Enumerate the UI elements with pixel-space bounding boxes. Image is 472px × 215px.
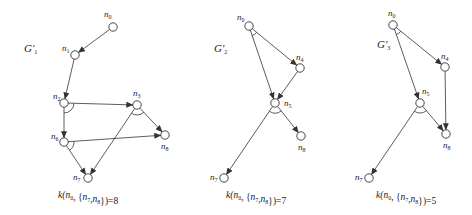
edge-n5-n7 bbox=[226, 107, 272, 175]
node-label-n1: n1 bbox=[62, 43, 70, 54]
edge-n4-n8 bbox=[445, 71, 446, 130]
and-connector-arc bbox=[70, 141, 75, 150]
node-label-n3: n3 bbox=[133, 88, 141, 99]
edge-n5-n8 bbox=[423, 106, 444, 131]
edge-n0-n1 bbox=[78, 30, 109, 53]
node-n3 bbox=[133, 101, 141, 109]
node-label-n8: n8 bbox=[443, 140, 451, 151]
node-n7 bbox=[365, 174, 373, 182]
node-n5 bbox=[416, 99, 424, 107]
graph-g1: n0n1n2n3n6n8n7G'1k(n0, {n7,n8})=8 bbox=[24, 9, 169, 207]
edge-n5-n8 bbox=[278, 106, 299, 132]
node-label-n7: n7 bbox=[355, 172, 363, 183]
graph-caption: k(n0, {n7,n8})=8 bbox=[58, 190, 118, 207]
node-n6 bbox=[60, 138, 68, 146]
edge-n0-n5 bbox=[250, 30, 273, 99]
and-connector-arc bbox=[252, 32, 257, 35]
node-label-n8: n8 bbox=[161, 141, 169, 152]
edge-n0-n5 bbox=[394, 29, 418, 99]
node-n0 bbox=[109, 23, 117, 31]
node-n4 bbox=[296, 64, 304, 72]
node-label-n0: n0 bbox=[237, 12, 245, 23]
node-n0 bbox=[389, 21, 397, 29]
graph-title: G'1 bbox=[24, 42, 37, 55]
node-n7 bbox=[84, 174, 92, 182]
node-n8 bbox=[442, 130, 450, 138]
edge-n3-n7 bbox=[90, 109, 134, 175]
graph-title: G'2 bbox=[214, 42, 227, 55]
node-n2 bbox=[60, 99, 68, 107]
node-label-n0: n0 bbox=[388, 8, 396, 19]
node-label-n7: n7 bbox=[73, 172, 81, 183]
edge-n3-n8 bbox=[140, 108, 162, 132]
node-label-n7: n7 bbox=[210, 172, 218, 183]
node-n4 bbox=[441, 63, 449, 71]
graph-caption: k(n0, {n7,n8})=7 bbox=[226, 190, 286, 207]
node-label-n6: n6 bbox=[51, 131, 59, 142]
node-n7 bbox=[220, 174, 228, 182]
edge-n0-n4 bbox=[396, 28, 441, 65]
graph-caption: k(n0, {n7,n8})=5 bbox=[376, 190, 436, 207]
node-label-n8: n8 bbox=[298, 142, 306, 153]
and-or-graph-figure: n0n1n2n3n6n8n7G'1k(n0, {n7,n8})=8n0n4n5n… bbox=[0, 0, 472, 215]
edge-n0-n4 bbox=[252, 29, 297, 66]
edge-n2-n3 bbox=[68, 103, 133, 105]
node-n1 bbox=[71, 51, 79, 59]
edge-n6-n7 bbox=[66, 146, 85, 175]
and-connector-arc bbox=[269, 111, 281, 113]
node-n8 bbox=[297, 132, 305, 140]
node-label-n5: n5 bbox=[284, 98, 292, 109]
edge-n1-n2 bbox=[65, 59, 74, 99]
edge-n6-n8 bbox=[68, 135, 161, 141]
node-n0 bbox=[245, 22, 253, 30]
and-connector-arc bbox=[396, 31, 401, 34]
graph-title: G'3 bbox=[377, 38, 390, 51]
graph-g2: n0n4n5n8n7G'2k(n0, {n7,n8})=7 bbox=[210, 12, 306, 207]
edge-n4-n5 bbox=[277, 71, 297, 99]
node-label-n5: n5 bbox=[422, 86, 430, 97]
and-connector-arc bbox=[131, 112, 143, 115]
and-connector-arc bbox=[414, 111, 426, 113]
node-label-n0: n0 bbox=[104, 9, 112, 20]
node-n8 bbox=[161, 131, 169, 139]
node-label-n4: n4 bbox=[441, 51, 449, 62]
edge-n5-n7 bbox=[371, 107, 417, 175]
node-label-n2: n2 bbox=[53, 91, 61, 102]
node-n5 bbox=[271, 99, 279, 107]
graph-g3: n0n4n5n8n7G'3k(n0, {n7,n8})=5 bbox=[355, 8, 451, 207]
node-label-n4: n4 bbox=[296, 52, 304, 63]
